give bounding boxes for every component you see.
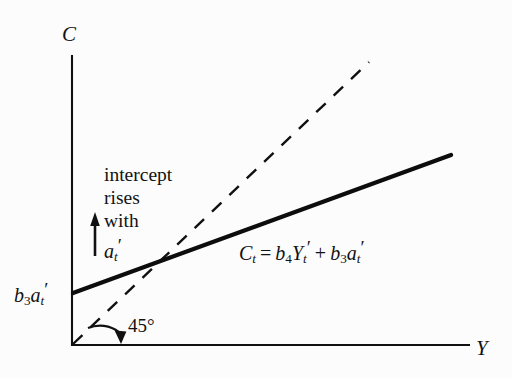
equation-equals-sign: = <box>260 242 271 264</box>
equation-lhs-base: C <box>239 242 252 264</box>
note-line-with: with <box>104 209 172 232</box>
angle-arc-icon <box>88 326 126 344</box>
intercept-coef-base: b <box>14 284 24 306</box>
angle-label: 45° <box>128 315 155 337</box>
intercept-variable-base: a <box>31 284 41 306</box>
note-symbol-prime: ′ <box>118 235 122 256</box>
diagram-canvas <box>0 0 512 378</box>
y-axis-label: C <box>62 22 76 47</box>
equation-term1-variable: Y <box>292 242 303 264</box>
y-intercept-label: b3at′ <box>14 279 48 308</box>
equation-plus-sign: + <box>315 242 326 264</box>
economics-consumption-function-diagram: C Y intercept rises with at′ b3at′ Ct=b4… <box>0 0 512 378</box>
intercept-rise-arrow-icon <box>90 212 100 256</box>
equation-term2-prime: ′ <box>360 237 364 258</box>
equation-term1-coef-base: b <box>275 242 285 264</box>
equation-term1-coef-subscript: 4 <box>285 251 292 266</box>
intercept-rise-note: intercept rises with at′ <box>104 163 172 264</box>
intercept-coef-subscript: 3 <box>24 293 31 308</box>
note-line-intercept: intercept <box>104 163 172 186</box>
equation-lhs-subscript: t <box>252 251 256 266</box>
intercept-prime: ′ <box>44 279 48 300</box>
note-symbol-shift-variable: at′ <box>104 235 172 264</box>
note-line-rises: rises <box>104 186 172 209</box>
equation-term2-coef-subscript: 3 <box>340 251 347 266</box>
x-axis-label: Y <box>476 336 488 361</box>
note-symbol-base: a <box>104 240 114 262</box>
equation-term2-coef-base: b <box>330 242 340 264</box>
equation-term2-variable: a <box>347 242 357 264</box>
consumption-function-equation: Ct=b4Yt′+b3at′ <box>239 237 365 266</box>
equation-term1-prime: ′ <box>307 237 311 258</box>
